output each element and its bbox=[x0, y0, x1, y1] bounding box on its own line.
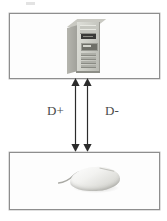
tower-base bbox=[76, 71, 100, 73]
tower-vent bbox=[81, 61, 96, 64]
usb-signal-diagram: D+ D- bbox=[0, 0, 167, 221]
tower-vent bbox=[81, 65, 96, 68]
signal-label-dminus: D- bbox=[105, 104, 119, 117]
tower-vent bbox=[81, 53, 96, 56]
host-computer-panel bbox=[9, 13, 160, 79]
double-headed-arrow-icon-dplus bbox=[70, 78, 81, 152]
tower-front-face bbox=[77, 22, 100, 72]
tower-optical-drive bbox=[81, 34, 96, 39]
tower-vent bbox=[81, 57, 96, 60]
computer-tower-icon bbox=[67, 19, 106, 73]
mouse-button-split bbox=[99, 168, 114, 172]
scan-artifact bbox=[26, 2, 35, 5]
computer-mouse-icon bbox=[58, 165, 120, 197]
tower-floppy-drive bbox=[81, 43, 98, 51]
device-panel bbox=[9, 152, 160, 210]
signal-label-dplus: D+ bbox=[47, 104, 64, 117]
double-headed-arrow-icon-dminus bbox=[82, 78, 93, 152]
